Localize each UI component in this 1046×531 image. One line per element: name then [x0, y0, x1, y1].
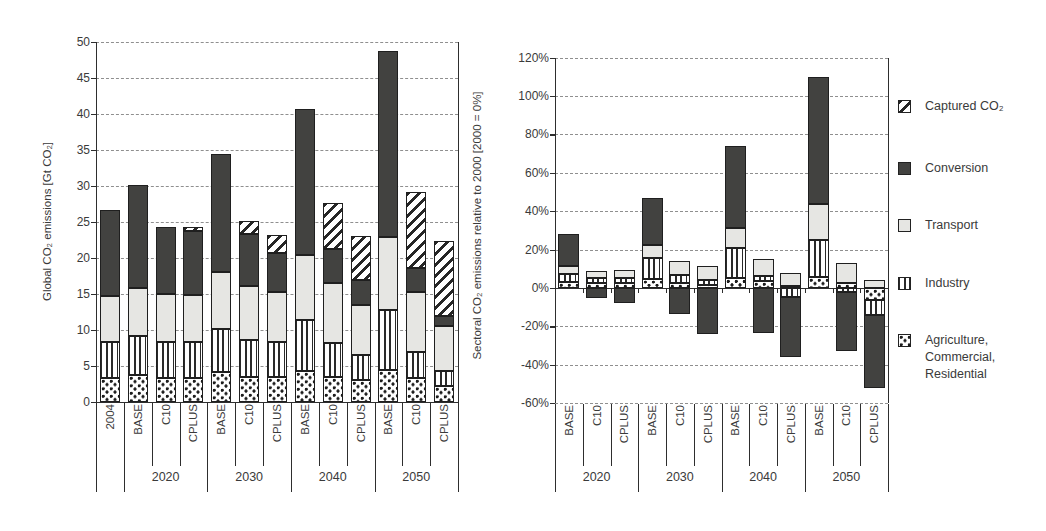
bar-segment-captured — [406, 192, 426, 268]
bar-segment-agriculture — [642, 279, 663, 288]
bar-label-c10: C10 — [242, 404, 256, 464]
legend-label-agriculture: Residential — [925, 366, 987, 383]
label-separator — [152, 403, 153, 466]
y-tick-label: 120% — [503, 51, 549, 65]
group-separator — [96, 403, 97, 492]
bar-segment-industry — [808, 240, 829, 277]
label-separator — [319, 403, 320, 466]
x-axis-tick — [777, 288, 778, 293]
y-tick-label: 10 — [48, 323, 90, 337]
bar-segment-transport — [753, 259, 774, 276]
y-axis-line — [555, 58, 556, 404]
legend-swatch-transport-icon — [898, 219, 911, 232]
bar-segment-conversion — [864, 315, 885, 388]
label-separator — [833, 404, 834, 466]
y-tick-label: 20 — [48, 251, 90, 265]
bar-segment-captured — [239, 221, 259, 233]
bar-segment-industry — [697, 280, 718, 285]
y-tick-label: 25 — [48, 215, 90, 229]
bar-label-c10: C10 — [159, 404, 173, 464]
figure-canvas: Global CO₂ emissions [Gt CO₂] Sectoral C… — [0, 0, 1046, 531]
label-separator — [402, 403, 403, 466]
label-separator — [611, 404, 612, 466]
y-axis-line — [96, 42, 97, 402]
bar-segment-conversion — [642, 198, 663, 245]
group-year-label-2050: 2050 — [816, 470, 876, 484]
bar-segment-conversion — [586, 288, 607, 298]
bar-segment-industry — [295, 320, 315, 371]
plot-right-border — [888, 58, 889, 404]
gridline — [96, 114, 458, 115]
bar-segment-agriculture — [558, 282, 579, 288]
gridline — [96, 78, 458, 79]
bar-segment-captured — [267, 235, 287, 253]
bar-segment-agriculture — [808, 277, 829, 288]
y-tick-label: 50 — [48, 35, 90, 49]
bar-segment-conversion — [753, 288, 774, 333]
bar-segment-agriculture — [323, 377, 343, 402]
label-separator — [235, 403, 236, 466]
y-tick-label: 100% — [503, 89, 549, 103]
y-tick-label: -60% — [503, 396, 549, 410]
label-separator — [347, 403, 348, 466]
bar-segment-transport — [697, 266, 718, 280]
gridline — [555, 96, 888, 97]
label-separator — [666, 404, 667, 466]
plot-right-border — [458, 42, 459, 402]
bar-segment-transport — [808, 204, 829, 240]
group-separator — [805, 404, 806, 492]
group-year-label-2030: 2030 — [219, 470, 279, 484]
bar-segment-transport — [586, 271, 607, 277]
bar-segment-conversion — [323, 249, 343, 284]
y-tick-label: 35 — [48, 143, 90, 157]
group-separator — [638, 404, 639, 492]
y-tick-label: 30 — [48, 179, 90, 193]
y-tick-label: 40 — [48, 107, 90, 121]
bar-segment-transport — [211, 272, 231, 328]
bar-segment-industry — [434, 371, 454, 386]
bar-segment-conversion — [406, 268, 426, 292]
bar-segment-industry — [211, 329, 231, 373]
label-separator — [430, 403, 431, 466]
bar-label-cplus: CPLUS — [186, 404, 200, 464]
bar-segment-industry — [100, 342, 120, 378]
group-separator — [375, 403, 376, 492]
bar-segment-transport — [406, 292, 426, 352]
gridline — [555, 365, 888, 366]
group-separator — [124, 403, 125, 492]
legend-swatch-conversion-icon — [898, 162, 911, 175]
group-year-label-2040: 2040 — [303, 470, 363, 484]
bar-segment-transport — [434, 326, 454, 371]
legend-label-industry: Industry — [925, 275, 969, 292]
bar-segment-agriculture — [406, 378, 426, 402]
bar-label-base: BASE — [812, 405, 826, 465]
bar-segment-industry — [406, 352, 426, 379]
y-tick-label: 45 — [48, 71, 90, 85]
bar-label-cplus: CPLUS — [354, 404, 368, 464]
bar-label-c10: C10 — [756, 405, 770, 465]
legend-swatch-industry-icon — [898, 277, 911, 290]
bar-segment-agriculture — [183, 378, 203, 402]
group-separator — [458, 403, 459, 492]
bar-segment-agriculture — [100, 378, 120, 402]
bar-segment-industry — [351, 355, 371, 379]
group-year-label-2030: 2030 — [650, 470, 710, 484]
label-separator — [583, 404, 584, 466]
bar-segment-transport — [100, 296, 120, 341]
bar-segment-industry — [669, 275, 690, 283]
bar-segment-agriculture — [753, 281, 774, 288]
bar-segment-transport — [295, 255, 315, 320]
bar-segment-captured — [323, 203, 343, 249]
y-tick-label: 15 — [48, 287, 90, 301]
bar-segment-conversion — [614, 288, 635, 303]
gridline — [96, 186, 458, 187]
bar-segment-transport — [239, 286, 259, 340]
bar-label-base: BASE — [131, 404, 145, 464]
bar-segment-conversion — [725, 146, 746, 228]
y-tick-label: 40% — [503, 204, 549, 218]
group-year-label-2050: 2050 — [386, 470, 446, 484]
gridline — [555, 211, 888, 212]
x-axis-tick — [694, 288, 695, 293]
bar-segment-agriculture — [434, 386, 454, 402]
bar-segment-conversion — [669, 288, 690, 314]
